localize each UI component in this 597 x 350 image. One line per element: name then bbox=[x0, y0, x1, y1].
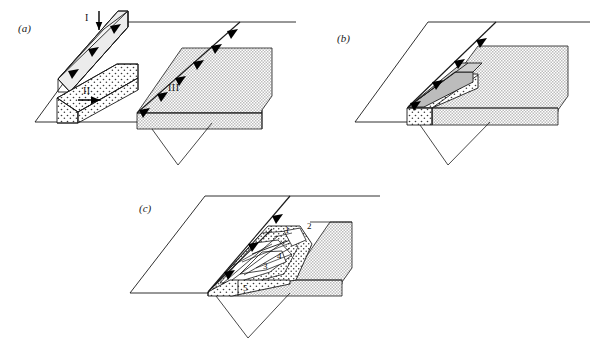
element-label-4: 4 bbox=[277, 251, 282, 261]
panel-c-base-vee bbox=[216, 293, 290, 338]
panel-label-b: (b) bbox=[337, 32, 350, 44]
element-label-5: 5 bbox=[243, 283, 248, 293]
panel-a bbox=[35, 11, 296, 165]
unit-label-III: III bbox=[168, 82, 180, 93]
panel-b-base-vee bbox=[420, 122, 490, 165]
figure-container: (a) (b) (c) I II III 1 2 3 4 5 bbox=[0, 0, 597, 350]
panel-b bbox=[355, 22, 590, 165]
element-label-3: 3 bbox=[263, 261, 268, 271]
panel-label-c: (c) bbox=[139, 202, 151, 214]
element-label-2: 2 bbox=[307, 221, 312, 231]
panel-label-a: (a) bbox=[18, 22, 31, 34]
unit-label-I: I bbox=[85, 12, 89, 23]
unit-label-II: II bbox=[83, 85, 91, 96]
panel-c bbox=[130, 196, 380, 338]
block-diagram-svg bbox=[0, 0, 597, 350]
element-label-1: 1 bbox=[285, 225, 290, 235]
